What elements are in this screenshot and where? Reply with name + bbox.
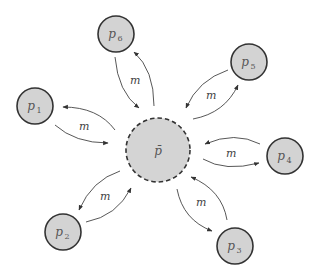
edge-label-p5: m (206, 89, 216, 102)
edge-p4: m (203, 138, 260, 167)
node-label-sub: 3 (236, 246, 241, 255)
node-label-base: p (108, 27, 116, 41)
edge-label-p1: m (79, 120, 89, 133)
arrow-center-to-p3 (177, 189, 212, 231)
node-label-sub: 5 (250, 62, 255, 71)
node-p5: p 5 (231, 44, 267, 80)
edge-p6: m (115, 52, 154, 108)
node-label-base: p (277, 149, 285, 163)
node-label-sub: 1 (36, 106, 41, 115)
edge-p5: m (186, 70, 238, 119)
edge-label-p6: m (130, 74, 140, 87)
star-diagram: m m m m m m p̄ p 1 p (0, 0, 317, 276)
node-p6: p 6 (98, 16, 134, 52)
center-node-label: p̄ (154, 144, 162, 158)
node-label-base: p (227, 239, 235, 253)
edge-label-p2: m (100, 190, 110, 203)
node-p3: p 3 (217, 228, 253, 264)
node-p4: p 4 (267, 138, 303, 174)
edge-p3: m (177, 177, 227, 231)
node-label-sub: 4 (286, 156, 291, 165)
arrow-p4-to-center (205, 138, 260, 145)
edge-p2: m (79, 171, 131, 222)
node-label-base: p (241, 55, 249, 69)
node-label-sub: 6 (117, 34, 122, 43)
node-label-base: p (27, 99, 35, 113)
node-label-sub: 2 (64, 232, 69, 241)
arrow-center-to-p4 (203, 159, 259, 167)
node-label-base: p (55, 225, 63, 239)
node-p1: p 1 (17, 88, 53, 124)
node-p2: p 2 (45, 214, 81, 250)
center-node-pbar: p̄ (126, 118, 190, 182)
edge-label-p4: m (226, 147, 236, 160)
edge-p1: m (55, 107, 115, 143)
edge-label-p3: m (196, 196, 206, 209)
